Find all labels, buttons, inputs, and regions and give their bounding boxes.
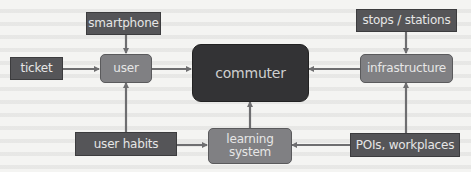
- node-stops-stations: stops / stations: [356, 9, 457, 32]
- node-commuter: commuter: [192, 44, 309, 102]
- node-label: POIs, workplaces: [356, 139, 454, 152]
- node-infrastructure: infrastructure: [360, 54, 453, 83]
- node-label: user: [113, 62, 138, 75]
- node-label: smartphone: [88, 17, 159, 30]
- node-label: infrastructure: [367, 62, 446, 75]
- node-label: stops / stations: [362, 14, 450, 27]
- node-label: user habits: [94, 138, 159, 151]
- node-smartphone: smartphone: [86, 12, 161, 35]
- node-pois-workplaces: POIs, workplaces: [350, 133, 460, 157]
- node-label: commuter: [215, 67, 286, 80]
- node-user: user: [100, 54, 152, 83]
- node-learning-system: learning system: [208, 128, 292, 164]
- node-label: learning system: [219, 133, 281, 159]
- node-ticket: ticket: [10, 57, 63, 80]
- node-label: ticket: [20, 62, 52, 75]
- node-user-habits: user habits: [75, 132, 177, 156]
